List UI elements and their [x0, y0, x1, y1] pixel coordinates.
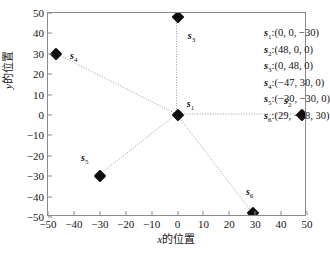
x-tick-mark: [229, 211, 230, 215]
y-tick-mark: [48, 53, 52, 54]
x-tick-mark: [307, 211, 308, 215]
y-tick-mark: [48, 196, 52, 197]
x-tick-mark: [281, 211, 282, 215]
x-tick-label: 30: [250, 219, 261, 230]
y-tick-mark: [48, 94, 52, 95]
y-tick-mark: [48, 33, 52, 34]
data-point-s5[interactable]: [93, 170, 106, 183]
y-axis-label: y的位置: [2, 20, 14, 120]
x-axis-label: x的位置: [47, 233, 306, 245]
data-point-label-s1: s1: [187, 99, 194, 113]
legend-entry: s5:(−30, −30, 0): [264, 93, 330, 110]
connector-line: [177, 114, 252, 211]
y-tick-label: −30: [27, 171, 44, 182]
y-tick-label: −40: [27, 191, 44, 202]
x-tick-label: 0: [175, 219, 181, 230]
y-tick-mark: [48, 74, 52, 75]
data-point-s6[interactable]: [246, 207, 259, 215]
y-tick-label: −20: [27, 150, 44, 161]
data-point-label-s4: s4: [70, 51, 77, 65]
connector-line: [99, 114, 176, 175]
x-tick-label: 40: [276, 219, 287, 230]
legend-entry: s2:(48, 0, 0): [264, 44, 330, 61]
y-tick-mark: [48, 135, 52, 136]
y-tick-mark: [48, 115, 52, 116]
x-tick-mark: [151, 211, 152, 215]
legend-entry: s6:(29, −48, 30): [264, 110, 330, 127]
data-point-label-s6: s6: [246, 187, 253, 201]
x-tick-label: −20: [117, 219, 134, 230]
plot-frame: s1s2s3s4s5s6 50403020100−10−20−30−40−50 …: [47, 12, 306, 216]
data-point-s3[interactable]: [171, 13, 184, 23]
y-tick-label: 50: [33, 8, 44, 19]
y-tick-label: −10: [27, 130, 44, 141]
x-tick-mark: [255, 211, 256, 215]
x-tick-label: −40: [65, 219, 82, 230]
x-tick-mark: [48, 211, 49, 215]
y-tick-mark: [48, 176, 52, 177]
x-tick-label: 10: [198, 219, 209, 230]
x-tick-mark: [203, 211, 204, 215]
data-point-s1[interactable]: [171, 109, 184, 122]
legend-entry: s4:(−47, 30, 0): [264, 77, 330, 94]
x-tick-label: −10: [143, 219, 160, 230]
legend-entry: s1:(0, 0, −30): [264, 27, 330, 44]
data-point-label-s5: s5: [81, 153, 88, 167]
y-tick-label: 30: [33, 48, 44, 59]
x-tick-label: −30: [91, 219, 108, 230]
x-tick-mark: [125, 211, 126, 215]
data-point-label-s3: s3: [188, 31, 195, 45]
legend: s1:(0, 0, −30)s2:(48, 0, 0)s3:(0, 48, 0)…: [264, 27, 330, 126]
x-tick-mark: [73, 211, 74, 215]
legend-entry: s3:(0, 48, 0): [264, 60, 330, 77]
x-tick-label: −50: [39, 219, 56, 230]
y-tick-label: 40: [33, 28, 44, 39]
y-tick-mark: [48, 13, 52, 14]
x-tick-label: 20: [224, 219, 235, 230]
x-tick-mark: [177, 211, 178, 215]
x-tick-label: 50: [302, 219, 313, 230]
y-tick-label: 0: [39, 110, 45, 121]
x-tick-mark: [99, 211, 100, 215]
y-tick-mark: [48, 155, 52, 156]
y-tick-label: 20: [33, 69, 44, 80]
y-tick-label: 10: [33, 89, 44, 100]
